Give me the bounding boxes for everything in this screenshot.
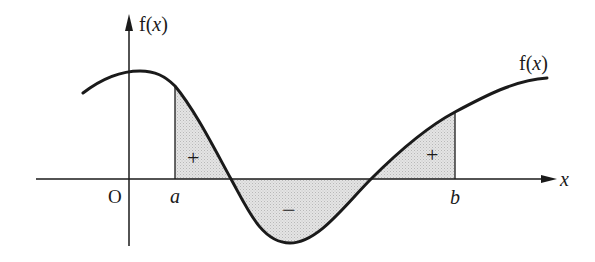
negative-region — [231, 179, 371, 243]
x-axis-arrow-icon — [541, 175, 557, 183]
origin-label: O — [108, 186, 122, 207]
right-positive-region — [371, 112, 455, 179]
integral-signed-area-diagram: f(x) f(x) x O a b + − + — [0, 0, 595, 262]
curve-label: f(x) — [519, 52, 548, 75]
y-axis-arrow-icon — [125, 14, 133, 31]
upper-bound-label: b — [450, 186, 460, 208]
y-axis-label: f(x) — [139, 13, 168, 36]
x-axis-label: x — [559, 168, 569, 190]
right-positive-sign: + — [426, 142, 438, 167]
lower-bound-label: a — [170, 185, 180, 207]
left-positive-sign: + — [187, 145, 199, 170]
negative-sign: − — [282, 197, 296, 223]
